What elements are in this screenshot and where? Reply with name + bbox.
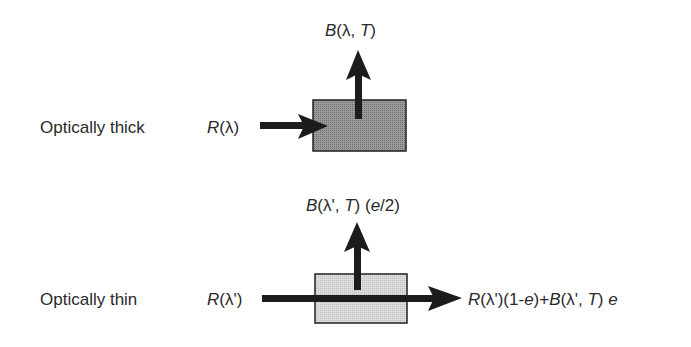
thin-right-e2: e (608, 290, 617, 309)
thin-right-R: R (468, 290, 480, 309)
thin-input-label: R(λ') (207, 291, 242, 308)
thin-right-e1: e (524, 290, 533, 309)
thick-label: Optically thick (40, 119, 145, 136)
thin-up-e: e (371, 196, 380, 215)
thin-label: Optically thin (40, 291, 137, 308)
thin-up-tail: /2) (380, 196, 400, 215)
thin-upward-output-label: B(λ', T) (e/2) (306, 197, 400, 214)
thin-up-B: B (306, 196, 317, 215)
thin-input-arg: (λ') (219, 290, 242, 309)
thin-right-T: T (587, 290, 597, 309)
thin-right-bopen: (λ', (561, 290, 588, 309)
thin-up-mid: ) ( (355, 196, 371, 215)
thin-right-plus: )+ (534, 290, 550, 309)
thin-right-B: B (549, 290, 560, 309)
thin-transmitted-output-label: R(λ')(1-e)+B(λ', T) e (468, 291, 618, 308)
thick-output-open: (λ, (336, 21, 360, 40)
thick-output-label: B(λ, T) (325, 22, 376, 39)
thick-output-symbol: B (325, 21, 336, 40)
thick-input-label: R(λ) (207, 119, 239, 136)
thin-right-bclose: ) (598, 290, 608, 309)
thick-input-arg: (λ) (219, 118, 239, 137)
thin-input-symbol: R (207, 290, 219, 309)
thick-input-symbol: R (207, 118, 219, 137)
thin-right-rarg: (λ')(1- (480, 290, 524, 309)
thin-up-open: (λ', (317, 196, 344, 215)
thick-output-close: ) (370, 21, 376, 40)
thin-up-T: T (344, 196, 354, 215)
thick-output-T: T (360, 21, 370, 40)
